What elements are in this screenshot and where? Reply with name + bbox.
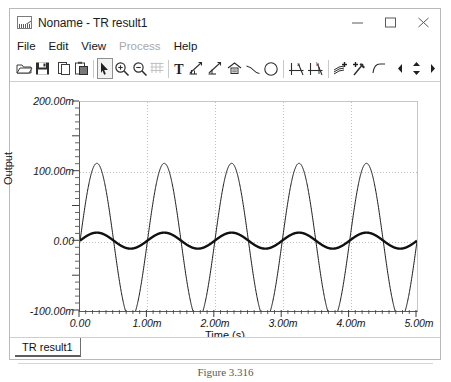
line-tool-icon[interactable] [244,58,262,79]
save-icon[interactable] [34,58,51,79]
spinner-icon[interactable] [409,58,425,79]
next-icon[interactable] [424,58,440,79]
series-small-sine [80,233,417,249]
marker-a-icon[interactable] [187,58,206,79]
y-tick-label: 200.00m [16,95,74,107]
tab-strip: TR result1 [10,337,440,359]
zoom-out-icon[interactable] [131,58,149,79]
x-tick-label: 0.00 [65,317,95,329]
add-trace-icon[interactable] [332,58,351,79]
minimize-icon[interactable] [341,9,374,36]
window-controls [341,9,440,36]
axis-a-icon[interactable]: a [287,58,306,79]
menu-item-help[interactable]: Help [174,40,205,52]
svg-text:T: T [175,62,185,77]
x-tick-label: 1.00m [130,317,164,329]
copy-icon[interactable] [56,58,73,79]
x-tick-label: 3.00m [266,317,300,329]
menu-item-view[interactable]: View [81,40,113,52]
toolbar: T [10,56,440,82]
axis-b-icon[interactable]: b [306,58,325,79]
svg-text:b: b [316,61,319,67]
marker-b-icon[interactable] [206,58,225,79]
add-curve-icon[interactable] [351,58,370,79]
caption-divider [18,363,433,364]
prev-icon[interactable] [393,58,409,79]
figure-caption: Figure 3.316 [0,366,451,382]
series-large-sine [80,163,417,311]
tab-tr-result1[interactable]: TR result1 [15,338,81,357]
corner-tool-icon[interactable] [370,58,388,79]
maximize-icon[interactable] [374,9,407,36]
menu-item-edit[interactable]: Edit [49,40,76,52]
y-tick-label: 100.00m [16,165,74,177]
menu-item-file[interactable]: File [17,40,43,52]
menu-bar: File Edit View Process Help [10,36,440,56]
y-tick-label: 0.00 [16,235,74,247]
tab-label: TR result1 [22,341,73,353]
y-tick-label: -100.00m [16,305,74,317]
y-axis-title: Output [2,152,14,185]
ellipse-tool-icon[interactable] [262,58,280,79]
open-icon[interactable] [15,58,34,79]
x-tick-label: 2.00m [198,317,232,329]
paste-icon[interactable] [73,58,90,79]
plot-area[interactable]: Output 200.00m 100.00m 0.00 -100.00m [10,82,440,344]
close-icon[interactable] [407,9,440,36]
select-arrow-icon[interactable] [97,58,113,79]
svg-text:a: a [297,61,300,67]
screenshot-root: Noname - TR result1 File Edit View Proce… [0,0,451,382]
waveform-icon [17,16,32,29]
text-tool-icon[interactable]: T [171,58,187,79]
menu-item-process: Process [119,40,168,52]
application-window: Noname - TR result1 File Edit View Proce… [9,8,441,360]
window-title: Noname - TR result1 [38,16,147,30]
plot-frame [79,101,418,312]
label-box-icon[interactable] [225,58,244,79]
chart-curves [80,102,417,311]
zoom-in-icon[interactable] [113,58,131,79]
x-tick-label: 5.00m [402,317,436,329]
title-bar: Noname - TR result1 [10,9,440,36]
grid-icon[interactable] [149,58,165,79]
x-tick-label: 4.00m [334,317,368,329]
